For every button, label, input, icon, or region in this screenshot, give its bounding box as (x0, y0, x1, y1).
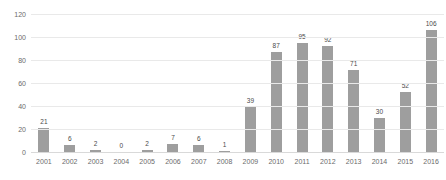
bar[interactable] (322, 46, 333, 152)
x-axis-tick-label: 2003 (83, 158, 109, 172)
bar-value-label: 71 (350, 61, 357, 68)
bar[interactable] (271, 52, 282, 152)
y-axis-tick-label: 20 (0, 126, 26, 133)
bar-value-label: 6 (197, 136, 201, 143)
x-axis-tick-label: 2002 (57, 158, 83, 172)
bar-value-label: 52 (402, 83, 409, 90)
x-axis: 2001200220032004200520062007200820092010… (31, 158, 444, 172)
bar-value-label: 7 (171, 135, 175, 142)
x-axis-tick-label: 2011 (289, 158, 315, 172)
axis-baseline (31, 152, 444, 153)
bar[interactable] (374, 118, 385, 153)
bar-chart: 020406080100120 216202761398795927130521… (0, 0, 446, 180)
x-axis-tick-label: 2012 (315, 158, 341, 172)
y-axis-tick-label: 100 (0, 34, 26, 41)
bar-value-label: 6 (68, 136, 72, 143)
bar-value-label: 30 (376, 109, 383, 116)
bar-value-label: 1 (223, 142, 227, 149)
bar-value-label: 2 (94, 141, 98, 148)
bar-value-label: 39 (247, 98, 254, 105)
bar[interactable] (193, 145, 204, 152)
x-axis-tick-label: 2005 (134, 158, 160, 172)
x-axis-tick-label: 2014 (367, 158, 393, 172)
bar[interactable] (38, 128, 49, 152)
gridline (31, 83, 444, 84)
y-axis-tick-label: 120 (0, 11, 26, 18)
bar[interactable] (400, 92, 411, 152)
bar-value-label: 92 (324, 37, 331, 44)
y-axis-tick-label: 60 (0, 80, 26, 87)
x-axis-tick-label: 2006 (160, 158, 186, 172)
gridline (31, 60, 444, 61)
x-axis-tick-label: 2001 (31, 158, 57, 172)
bar[interactable] (167, 144, 178, 152)
bar-value-label: 87 (273, 43, 280, 50)
x-axis-tick-label: 2009 (238, 158, 264, 172)
x-axis-tick-label: 2015 (392, 158, 418, 172)
bar[interactable] (426, 30, 437, 152)
bar-value-label: 21 (40, 119, 47, 126)
y-axis: 020406080100120 (0, 0, 30, 180)
x-axis-tick-label: 2007 (186, 158, 212, 172)
gridline (31, 106, 444, 107)
bar-value-label: 2 (145, 141, 149, 148)
y-axis-tick-label: 80 (0, 57, 26, 64)
bar-value-label: 0 (120, 143, 124, 150)
x-axis-tick-label: 2016 (418, 158, 444, 172)
gridline (31, 129, 444, 130)
x-axis-tick-label: 2008 (212, 158, 238, 172)
x-axis-tick-label: 2010 (263, 158, 289, 172)
plot-area: 21620276139879592713052106 (31, 14, 444, 152)
gridline (31, 37, 444, 38)
y-axis-tick-label: 40 (0, 103, 26, 110)
x-axis-tick-label: 2013 (341, 158, 367, 172)
y-axis-tick-label: 0 (0, 149, 26, 156)
x-axis-tick-label: 2004 (108, 158, 134, 172)
gridline (31, 14, 444, 15)
bar[interactable] (64, 145, 75, 152)
bar-value-label: 106 (426, 21, 437, 28)
